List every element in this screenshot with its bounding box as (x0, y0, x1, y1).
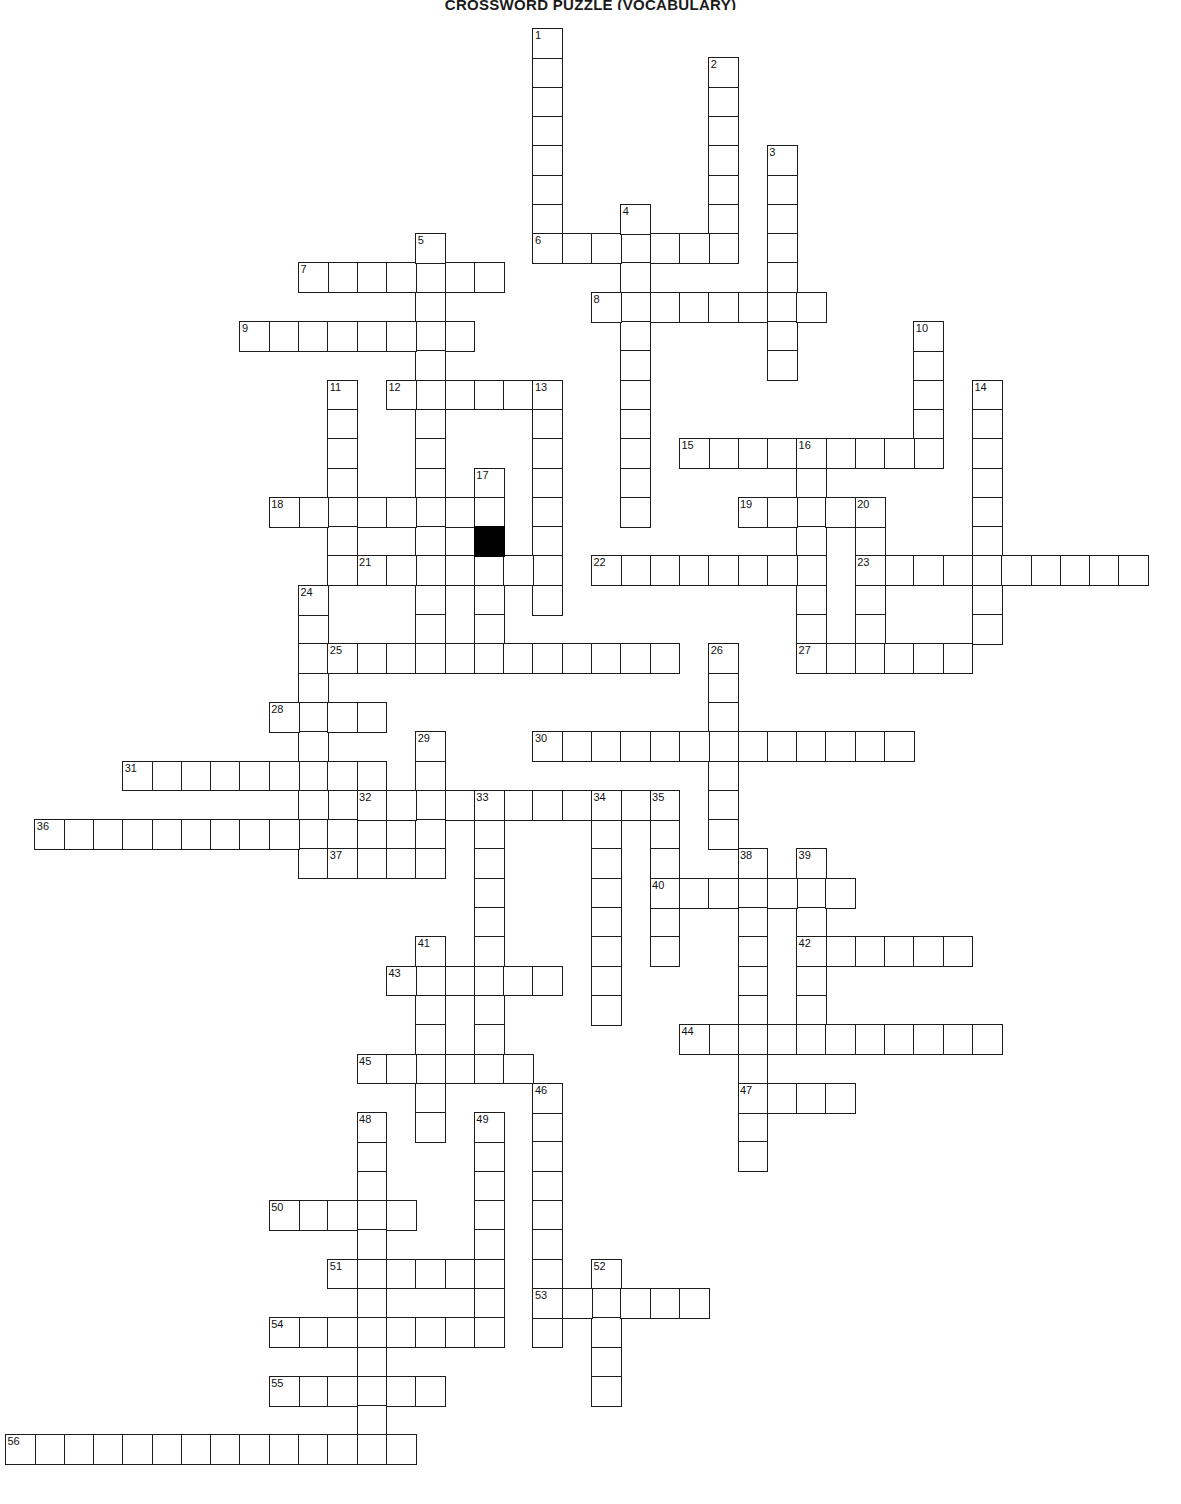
crossword-cell[interactable]: 25 (327, 643, 358, 674)
crossword-cell[interactable] (327, 1200, 358, 1231)
crossword-cell[interactable] (445, 321, 476, 352)
crossword-cell[interactable] (591, 878, 622, 909)
crossword-cell[interactable] (474, 1317, 505, 1348)
crossword-cell[interactable] (327, 1376, 358, 1407)
crossword-cell[interactable] (415, 438, 446, 469)
crossword-cell[interactable]: 43 (386, 966, 417, 997)
crossword-cell[interactable] (532, 1317, 563, 1348)
crossword-cell[interactable] (386, 1259, 417, 1290)
crossword-cell[interactable] (503, 643, 534, 674)
crossword-cell[interactable] (913, 643, 944, 674)
crossword-cell[interactable] (1001, 555, 1032, 586)
crossword-cell[interactable] (64, 819, 95, 850)
crossword-cell[interactable] (474, 878, 505, 909)
crossword-cell[interactable] (298, 614, 329, 645)
crossword-cell[interactable] (532, 1229, 563, 1260)
crossword-cell[interactable]: 49 (474, 1112, 505, 1143)
crossword-cell[interactable]: 8 (591, 292, 622, 323)
crossword-cell[interactable] (972, 409, 1003, 440)
crossword-cell[interactable] (415, 380, 446, 411)
crossword-cell[interactable]: 26 (708, 643, 739, 674)
crossword-cell[interactable] (591, 848, 622, 879)
crossword-cell[interactable] (386, 262, 417, 293)
crossword-cell[interactable] (825, 643, 856, 674)
crossword-cell[interactable]: 15 (679, 438, 710, 469)
crossword-cell[interactable] (386, 1434, 417, 1465)
crossword-cell[interactable] (650, 1288, 681, 1319)
crossword-cell[interactable] (357, 497, 388, 528)
crossword-cell[interactable]: 47 (738, 1083, 769, 1114)
crossword-cell[interactable] (152, 819, 183, 850)
crossword-cell[interactable] (357, 1317, 388, 1348)
crossword-cell[interactable] (445, 790, 476, 821)
crossword-cell[interactable] (738, 1024, 769, 1055)
crossword-cell[interactable] (913, 409, 944, 440)
crossword-cell[interactable] (474, 1229, 505, 1260)
crossword-cell[interactable] (415, 1259, 446, 1290)
crossword-cell[interactable] (972, 438, 1003, 469)
crossword-cell[interactable] (298, 761, 329, 792)
crossword-cell[interactable] (327, 409, 358, 440)
crossword-cell[interactable] (650, 731, 681, 762)
crossword-cell[interactable] (679, 292, 710, 323)
crossword-cell[interactable]: 33 (474, 790, 505, 821)
crossword-cell[interactable] (503, 380, 534, 411)
crossword-cell[interactable] (357, 1259, 388, 1290)
crossword-cell[interactable] (386, 1200, 417, 1231)
crossword-cell[interactable] (415, 321, 446, 352)
crossword-cell[interactable] (415, 1376, 446, 1407)
crossword-cell[interactable] (474, 497, 505, 528)
crossword-cell[interactable]: 24 (298, 585, 329, 616)
crossword-cell[interactable] (620, 350, 651, 381)
crossword-cell[interactable] (855, 614, 886, 645)
crossword-cell[interactable] (445, 497, 476, 528)
crossword-cell[interactable] (972, 555, 1003, 586)
crossword-cell[interactable] (738, 936, 769, 967)
crossword-cell[interactable] (269, 321, 300, 352)
crossword-cell[interactable] (298, 321, 329, 352)
crossword-cell[interactable] (357, 1288, 388, 1319)
crossword-cell[interactable] (708, 1024, 739, 1055)
crossword-cell[interactable] (474, 848, 505, 879)
crossword-cell[interactable] (767, 438, 798, 469)
crossword-cell[interactable] (855, 585, 886, 616)
crossword-cell[interactable] (591, 643, 622, 674)
crossword-cell[interactable] (650, 233, 681, 264)
crossword-cell[interactable] (738, 555, 769, 586)
crossword-cell[interactable] (708, 731, 739, 762)
crossword-cell[interactable] (357, 1405, 388, 1436)
crossword-cell[interactable] (532, 497, 563, 528)
crossword-cell[interactable] (825, 878, 856, 909)
crossword-cell[interactable] (884, 731, 915, 762)
crossword-cell[interactable] (327, 468, 358, 499)
crossword-cell[interactable] (532, 966, 563, 997)
crossword-cell[interactable] (708, 292, 739, 323)
crossword-cell[interactable] (327, 497, 358, 528)
crossword-cell[interactable] (650, 555, 681, 586)
crossword-cell[interactable] (327, 1317, 358, 1348)
crossword-cell[interactable] (357, 702, 388, 733)
crossword-cell[interactable] (855, 643, 886, 674)
crossword-cell[interactable] (708, 878, 739, 909)
crossword-cell[interactable] (972, 468, 1003, 499)
crossword-cell[interactable]: 39 (796, 848, 827, 879)
crossword-cell[interactable] (327, 321, 358, 352)
crossword-cell[interactable] (474, 585, 505, 616)
crossword-cell[interactable] (415, 1024, 446, 1055)
crossword-cell[interactable] (796, 585, 827, 616)
crossword-cell[interactable] (738, 1112, 769, 1143)
crossword-cell[interactable] (532, 204, 563, 235)
crossword-cell[interactable] (620, 790, 651, 821)
crossword-cell[interactable] (327, 526, 358, 557)
crossword-cell[interactable] (386, 555, 417, 586)
crossword-cell[interactable] (415, 497, 446, 528)
crossword-cell[interactable] (650, 819, 681, 850)
crossword-cell[interactable] (738, 1141, 769, 1172)
crossword-cell[interactable] (239, 1434, 270, 1465)
crossword-cell[interactable]: 50 (269, 1200, 300, 1231)
crossword-cell[interactable] (620, 731, 651, 762)
crossword-cell[interactable]: 35 (650, 790, 681, 821)
crossword-cell[interactable] (738, 907, 769, 938)
crossword-cell[interactable] (532, 1171, 563, 1202)
crossword-cell[interactable] (620, 468, 651, 499)
